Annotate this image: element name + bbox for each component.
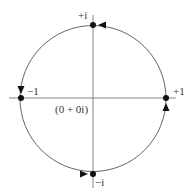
label-minus-i: −i xyxy=(95,176,104,188)
point-minus-one xyxy=(18,95,24,101)
label-plus-i: +i xyxy=(78,9,87,21)
point-plus-one xyxy=(163,95,169,101)
arrow-top-icon xyxy=(98,22,106,29)
arrow-right-icon xyxy=(163,103,170,111)
unit-circle-diagram: +i −1 −i +1 (0 + 0i) xyxy=(0,0,193,195)
label-plus-one: +1 xyxy=(173,85,185,97)
label-minus-one: −1 xyxy=(27,85,39,97)
arrow-left-icon xyxy=(18,86,25,94)
point-plus-i xyxy=(90,22,96,28)
label-origin: (0 + 0i) xyxy=(55,103,88,116)
